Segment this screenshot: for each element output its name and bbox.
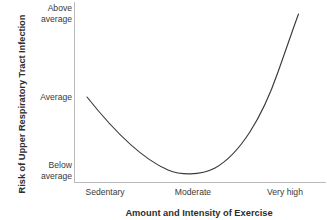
x-axis-title: Amount and Intensity of Exercise <box>74 207 324 219</box>
chart-container: Risk of Upper Respiratory Tract Infectio… <box>0 0 327 220</box>
x-tick-label-very-high: Very high <box>267 187 303 198</box>
x-tick-label-moderate: Moderate <box>175 187 211 198</box>
x-tick-label-sedentary: Sedentary <box>85 187 124 198</box>
risk-curve-line <box>87 14 299 174</box>
